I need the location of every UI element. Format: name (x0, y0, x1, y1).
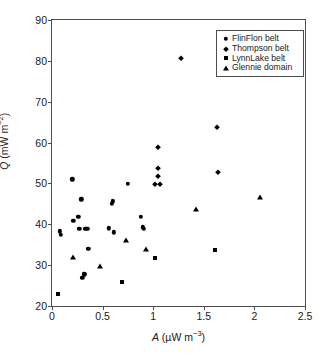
data-point (111, 199, 115, 203)
data-point (153, 256, 157, 260)
data-point (142, 227, 146, 231)
x-tick-label: 0.5 (95, 310, 110, 322)
data-point (70, 177, 74, 181)
data-point (79, 197, 83, 201)
data-point (193, 206, 199, 211)
data-point (70, 254, 76, 259)
data-point (56, 292, 60, 296)
legend-label: Thompson belt (232, 44, 289, 54)
y-tick-label: 60 (35, 137, 47, 149)
x-tick-label: 1 (150, 310, 156, 322)
legend-item-triangle: Glennie domain (220, 63, 299, 73)
data-point (126, 182, 130, 186)
data-point (143, 246, 149, 251)
data-point (76, 214, 80, 218)
data-point (158, 181, 163, 186)
data-point (156, 144, 161, 149)
data-point (106, 226, 110, 230)
y-tick (48, 20, 52, 21)
legend-label: Glennie domain (232, 63, 292, 73)
data-point (71, 218, 75, 222)
data-point (59, 233, 63, 237)
data-point (139, 215, 143, 219)
y-tick-label: 40 (35, 218, 47, 230)
data-point (86, 247, 90, 251)
x-tick-label: 1.5 (196, 310, 211, 322)
y-tick-label: 90 (35, 14, 47, 26)
marker-diamond (223, 46, 228, 51)
data-point (80, 276, 84, 280)
data-point (120, 280, 124, 284)
data-point (156, 165, 161, 170)
data-point (112, 230, 116, 234)
scatter-plot-figure: 203040506070809000.511.522.5 A (µW m−3) … (0, 0, 329, 356)
legend-marker-triangle-icon (220, 63, 232, 73)
y-tick-label: 50 (35, 177, 47, 189)
y-tick-label: 30 (35, 259, 47, 271)
y-tick-label: 70 (35, 96, 47, 108)
data-point (97, 263, 103, 268)
y-tick-label: 80 (35, 55, 47, 67)
x-tick-label: 0 (49, 310, 55, 322)
legend-marker-square-icon (220, 54, 232, 64)
data-point (215, 170, 220, 175)
x-tick-label: 2.5 (298, 310, 313, 322)
data-point (178, 55, 183, 60)
legend-marker-diamond-icon (220, 44, 232, 54)
x-axis-label: A (µW m−3) (51, 329, 306, 343)
legend-marker-circle-icon (220, 34, 232, 44)
y-tick (48, 265, 52, 266)
y-tick (48, 183, 52, 184)
marker-circle (224, 37, 228, 41)
y-tick (48, 143, 52, 144)
data-point (257, 194, 263, 199)
y-tick (48, 102, 52, 103)
x-tick-label: 2 (251, 310, 257, 322)
data-point (214, 124, 219, 129)
data-point (213, 248, 217, 252)
data-point (77, 227, 81, 231)
y-tick-label: 20 (35, 300, 47, 312)
y-tick (48, 61, 52, 62)
marker-square (224, 56, 228, 60)
legend-item-diamond: Thompson belt (220, 44, 299, 54)
y-tick (48, 224, 52, 225)
data-point (156, 174, 161, 179)
data-point (123, 238, 129, 243)
legend: FlinFlon beltThompson beltLynnLake beltG… (216, 30, 304, 77)
marker-triangle (223, 66, 229, 71)
y-axis-label: Q (mW m−2) (0, 113, 10, 170)
data-point (82, 272, 86, 276)
data-point (85, 227, 89, 231)
